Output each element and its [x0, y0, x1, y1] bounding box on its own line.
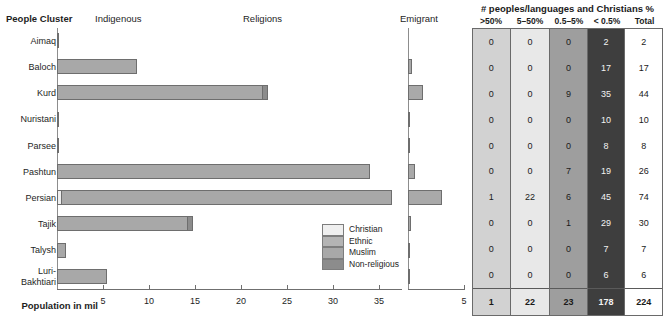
population-bar-persian[interactable]: [57, 190, 392, 205]
table-total-cell: 23: [550, 288, 587, 315]
x-tick-label: 20: [236, 296, 246, 306]
legend-item[interactable]: Christian: [322, 224, 399, 236]
emigrant-x-axis: [408, 289, 464, 290]
legend-item[interactable]: Non-religious: [322, 259, 399, 271]
table-title: # peoples/languages and Christians %: [470, 3, 665, 14]
category-label-luri-bakhtiari: Luri-Bakhtiari: [2, 266, 56, 287]
table-total-cell: 22: [511, 288, 550, 315]
table-cell: 0: [511, 55, 550, 81]
table-cell: 22: [511, 184, 550, 210]
table-cell: 10: [625, 107, 662, 133]
population-bar-pashtun[interactable]: [57, 164, 370, 179]
table-cell: 6: [550, 184, 587, 210]
emigrant-bar-row: [408, 238, 464, 264]
x-tick-label: 25: [282, 296, 292, 306]
category-label-line: Parsee: [2, 141, 56, 152]
category-label-aimaq: Aimaq: [2, 36, 56, 47]
category-label-line: Aimaq: [2, 36, 56, 47]
bar-segment-muslim: [58, 217, 187, 230]
category-label-kurd: Kurd: [2, 88, 56, 99]
table-cell: 0: [550, 262, 587, 288]
x-tick: [333, 285, 334, 290]
emigrant-bar-baloch[interactable]: [408, 59, 412, 74]
bar-segment-muslim: [58, 86, 262, 99]
emigrant-bar-talysh[interactable]: [408, 243, 410, 258]
legend-label: Muslim: [349, 247, 376, 259]
legend-label: Christian: [349, 224, 383, 236]
x-tick: [149, 285, 150, 290]
table-cell: 6: [625, 262, 662, 288]
category-label-line: Talysh: [2, 245, 56, 256]
table-cell: 35: [588, 81, 625, 107]
emigrant-bar-row: [408, 80, 464, 106]
axis-caption: Population in mil: [0, 300, 98, 311]
table-cell: 0: [473, 107, 510, 133]
population-bar-parsee[interactable]: [57, 138, 59, 153]
population-bar-tajik[interactable]: [57, 216, 193, 231]
table-cell: 45: [588, 184, 625, 210]
table-cell: 0: [511, 29, 550, 55]
category-label-line: Luri-: [2, 266, 56, 277]
table-cell: 17: [625, 55, 662, 81]
x-tick: [241, 285, 242, 290]
emigrant-bar-luri-bakhtiari[interactable]: [408, 269, 410, 284]
emigrant-x-tick-label: 5: [461, 296, 466, 306]
table-cell: 0: [550, 107, 587, 133]
category-label-line: Nuristani: [2, 114, 56, 125]
population-bar-nuristani[interactable]: [57, 112, 59, 127]
table-cell: 74: [625, 184, 662, 210]
table-cell: 0: [473, 55, 510, 81]
data-table: 0000001000100000022000220090076100232173…: [472, 28, 663, 316]
table-cell: 0: [473, 236, 510, 262]
table-cell: 0: [550, 29, 587, 55]
legend-item[interactable]: Muslim: [322, 247, 399, 259]
x-tick: [379, 285, 380, 290]
category-label-baloch: Baloch: [2, 62, 56, 73]
emigrant-bar-kurd[interactable]: [408, 85, 423, 100]
population-bar-luri-bakhtiari[interactable]: [57, 269, 107, 284]
bar-row: [57, 159, 402, 185]
table-cell: 0: [550, 133, 587, 159]
category-label-line: Baloch: [2, 62, 56, 73]
table-cell: 7: [550, 159, 587, 185]
legend-item[interactable]: Ethnic: [322, 236, 399, 248]
emigrant-bar-pashtun[interactable]: [408, 164, 415, 179]
table-cell: 30: [625, 210, 662, 236]
table-cell: 7: [588, 236, 625, 262]
population-bar-kurd[interactable]: [57, 85, 268, 100]
emigrant-bar-persian[interactable]: [408, 190, 442, 205]
table-total-cell: 178: [588, 288, 625, 315]
legend-label: Non-religious: [349, 259, 399, 271]
table-cell: 44: [625, 81, 662, 107]
bar-segment-muslim: [58, 165, 369, 178]
category-label-tajik: Tajik: [2, 219, 56, 230]
x-tick-label: 10: [144, 296, 154, 306]
table-cell: 0: [473, 133, 510, 159]
emigrant-bar-row: [408, 185, 464, 211]
table-cell: 0: [473, 262, 510, 288]
table-column-header-0: >50%: [472, 16, 510, 26]
category-label-pashtun: Pashtun: [2, 167, 56, 178]
table-column-header-2: 0.5–5%: [550, 16, 588, 26]
emigrant-bar-parsee[interactable]: [408, 138, 410, 153]
population-bar-aimaq[interactable]: [57, 33, 59, 48]
population-bar-talysh[interactable]: [57, 243, 66, 258]
population-bar-baloch[interactable]: [57, 59, 137, 74]
bar-row: [57, 54, 402, 80]
legend-swatch-icon: [322, 236, 344, 248]
column-header-religions: Religions: [243, 13, 282, 24]
table-cell: 7: [625, 236, 662, 262]
table-column-header-4: Total: [626, 16, 663, 26]
bar-segment-muslim: [61, 191, 391, 204]
table-column-2: 009007610023: [550, 29, 588, 315]
category-label-nuristani: Nuristani: [2, 114, 56, 125]
emigrant-bar-tajik[interactable]: [408, 216, 411, 231]
emigrant-bar-nuristani[interactable]: [408, 112, 410, 127]
bar-segment-non-religious: [187, 217, 193, 230]
table-column-0: 00000010001: [473, 29, 511, 315]
legend-swatch-icon: [322, 224, 344, 236]
category-label-line: Kurd: [2, 88, 56, 99]
category-label-parsee: Parsee: [2, 141, 56, 152]
table-cell: 6: [588, 262, 625, 288]
bar-row: [57, 107, 402, 133]
